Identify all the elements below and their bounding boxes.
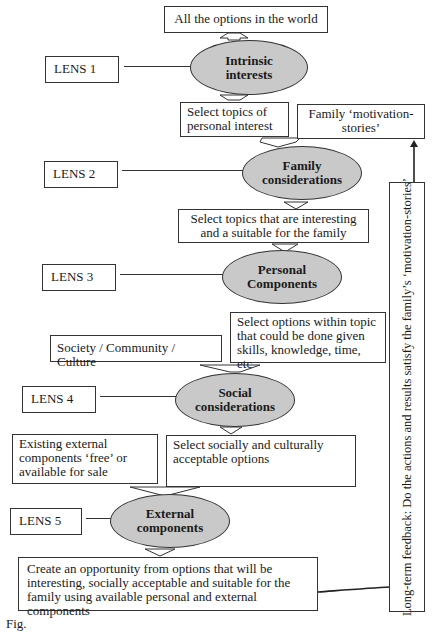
ellipse-line: Family bbox=[262, 159, 342, 173]
lens-1-connector bbox=[124, 66, 192, 67]
external-components-ellipse: Externalcomponents bbox=[110, 494, 230, 548]
ellipse-line: Components bbox=[247, 277, 317, 291]
lens-3-label: LENS 3 bbox=[42, 264, 116, 291]
ellipse-line: considerations bbox=[195, 400, 275, 414]
family-considerations-ellipse: Familyconsiderations bbox=[242, 146, 362, 200]
ellipse-line: components bbox=[137, 521, 203, 535]
motivation-stories-box: Family ‘motivation-stories’ bbox=[297, 104, 425, 139]
ellipse-line: interests bbox=[225, 68, 273, 82]
create-opportunity-box: Create an opportunity from options that … bbox=[18, 557, 318, 611]
figure-caption: Fig. bbox=[6, 616, 27, 632]
lens-3-connector bbox=[120, 274, 224, 275]
options-within-topic-box: Select options within topic that could b… bbox=[230, 312, 386, 363]
social-considerations-ellipse: Socialconsiderations bbox=[175, 373, 295, 427]
feedback-box: Long-term feedback: Do the actions and r… bbox=[389, 182, 425, 612]
personal-components-ellipse: PersonalComponents bbox=[222, 250, 342, 304]
ellipse-line: Personal bbox=[247, 263, 317, 277]
society-box: Society / Community / Culture bbox=[50, 335, 222, 362]
feedback-text: Long-term feedback: Do the actions and r… bbox=[400, 178, 415, 616]
lens-5-connector bbox=[86, 518, 112, 519]
intrinsic-interests-ellipse: Intrinsicinterests bbox=[190, 40, 308, 95]
existing-external-box: Existing external components ‘free’ or a… bbox=[12, 434, 158, 484]
socially-acceptable-box: Select socially and culturally acceptabl… bbox=[166, 435, 356, 487]
ellipse-line: Intrinsic bbox=[225, 54, 273, 68]
ellipse-line: External bbox=[137, 507, 203, 521]
ellipse-line: considerations bbox=[262, 173, 342, 187]
lens-4-label: LENS 4 bbox=[22, 386, 96, 413]
ellipse-line: Social bbox=[195, 386, 275, 400]
lens-4-connector bbox=[100, 396, 176, 397]
interesting-suitable-box: Select topics that are interesting and a… bbox=[178, 209, 369, 243]
personal-interest-box: Select topics of personal interest bbox=[180, 102, 289, 137]
all-options-box: All the options in the world bbox=[164, 6, 328, 33]
lens-5-label: LENS 5 bbox=[10, 508, 82, 535]
lens-2-connector bbox=[122, 170, 244, 171]
lens-2-label: LENS 2 bbox=[44, 161, 118, 188]
lens-1-label: LENS 1 bbox=[45, 56, 119, 83]
